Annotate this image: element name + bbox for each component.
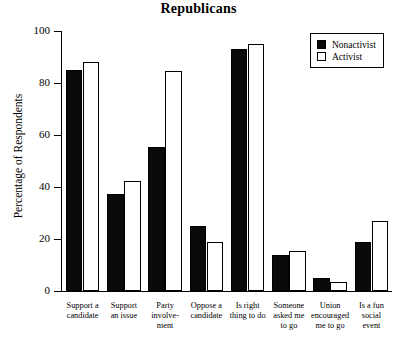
chart-figure: Republicans Percentage of Respondents 02… — [0, 0, 397, 343]
y-axis-tick-label: 100 — [10, 25, 50, 36]
chart-legend: Nonactivist Activist — [310, 33, 384, 68]
bar-activist — [289, 251, 306, 291]
bar-activist — [207, 242, 224, 291]
bar-nonactivist — [272, 255, 289, 291]
bar-nonactivist — [148, 147, 165, 291]
bar-nonactivist — [355, 242, 372, 291]
x-axis-category-label-line: Is a fun — [347, 301, 396, 311]
bar-activist — [330, 282, 347, 291]
y-axis-tick — [54, 239, 62, 240]
bar-activist — [83, 62, 100, 291]
bar-activist — [165, 71, 182, 291]
legend-item: Nonactivist — [317, 39, 376, 50]
chart-title: Republicans — [0, 1, 397, 17]
legend-item: Activist — [317, 51, 376, 62]
y-axis-tick — [54, 187, 62, 188]
y-axis-tick — [54, 83, 62, 84]
y-axis-tick-label: 0 — [10, 285, 50, 296]
x-axis-category-label-line: social — [347, 311, 396, 321]
y-axis-tick-label: 80 — [10, 77, 50, 88]
y-axis-tick-label: 60 — [10, 129, 50, 140]
bar-activist — [124, 181, 141, 292]
legend-item-label: Nonactivist — [332, 40, 376, 50]
legend-item-label: Activist — [332, 52, 362, 62]
bar-nonactivist — [107, 194, 124, 292]
bar-nonactivist — [190, 226, 207, 291]
open-square-icon — [317, 52, 326, 61]
bar-nonactivist — [231, 49, 248, 291]
x-axis-category-label-line: event — [347, 321, 396, 331]
x-axis-category-label: Is a funsocialevent — [347, 301, 396, 331]
x-axis-line — [61, 291, 392, 292]
y-axis-tick-label: 20 — [10, 233, 50, 244]
plot-area — [62, 31, 392, 291]
y-axis-tick-label: 40 — [10, 181, 50, 192]
bar-activist — [372, 221, 389, 291]
y-axis-tick — [54, 291, 62, 292]
bar-nonactivist — [66, 70, 83, 291]
y-axis-tick — [54, 135, 62, 136]
filled-square-icon — [317, 40, 326, 49]
x-axis-category-label-line: ment — [141, 321, 190, 331]
y-axis-tick — [54, 31, 62, 32]
bar-nonactivist — [313, 278, 330, 291]
bar-activist — [248, 44, 265, 291]
